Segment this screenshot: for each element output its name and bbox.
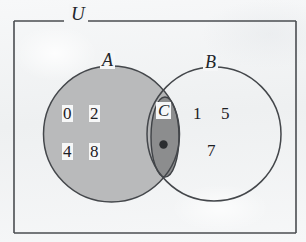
set-a-label: A — [100, 51, 115, 69]
universe-label: U — [69, 4, 87, 23]
venn-diagram-canvas — [0, 0, 306, 242]
set-b-label: B — [203, 53, 218, 71]
venn-diagram-figure: U A B C 0 2 4 8 1 5 7 — [0, 0, 306, 242]
element-b-7: 7 — [207, 142, 216, 159]
set-c-element-point — [159, 140, 167, 148]
set-c-label: C — [156, 102, 171, 119]
element-b-1: 1 — [193, 105, 202, 122]
element-a-8: 8 — [89, 143, 100, 160]
element-a-0: 0 — [62, 105, 73, 122]
element-b-5: 5 — [221, 105, 230, 122]
element-a-2: 2 — [89, 105, 100, 122]
element-a-4: 4 — [62, 143, 73, 160]
